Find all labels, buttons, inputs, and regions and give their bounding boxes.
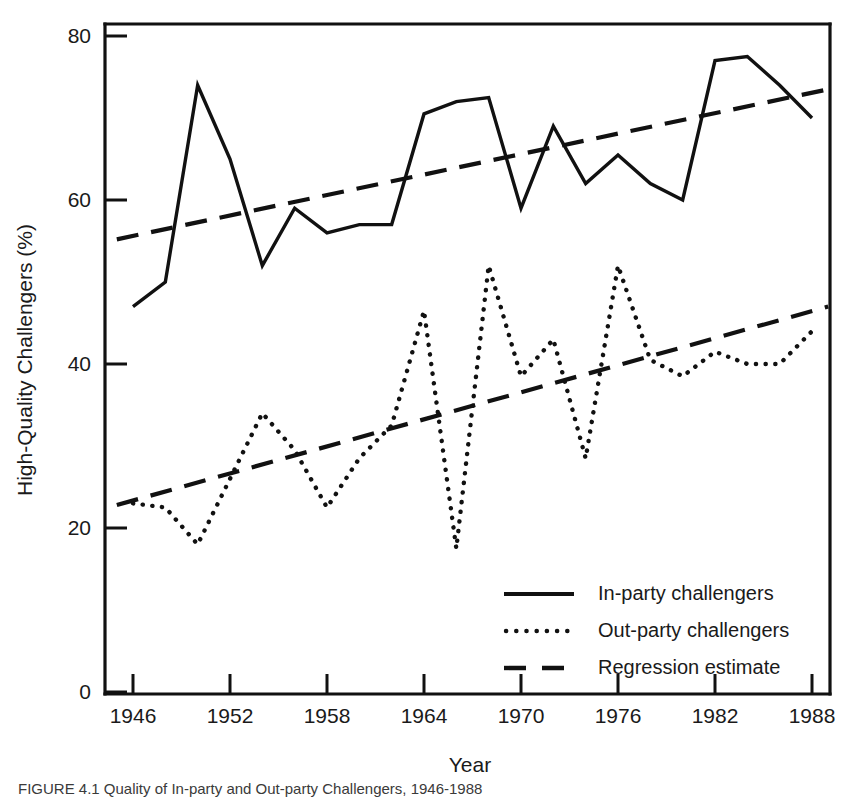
series-line-out-party: [133, 266, 812, 549]
x-tick-label-1958: 1958: [304, 704, 351, 727]
legend-label-out-party: Out-party challengers: [598, 619, 789, 641]
x-tick-label-1988: 1988: [789, 704, 836, 727]
series-line-in-party: [133, 57, 812, 307]
figure-caption: FIGURE 4.1 Quality of In-party and Out-p…: [18, 780, 858, 797]
legend-label-in-party: In-party challengers: [598, 582, 774, 604]
x-tick-label-1952: 1952: [207, 704, 254, 727]
x-tick-label-1964: 1964: [401, 704, 448, 727]
regression-line-in-party: [117, 89, 828, 239]
x-tick-label-1970: 1970: [498, 704, 545, 727]
x-tick-label-1976: 1976: [595, 704, 642, 727]
y-tick-label-60: 60: [68, 188, 91, 211]
x-tick-label-1946: 1946: [110, 704, 157, 727]
y-tick-label-0: 0: [79, 680, 91, 703]
chart-legend: In-party challengers Out-party challenge…: [504, 582, 789, 678]
y-axis-ticks: [105, 36, 127, 692]
legend-label-regression: Regression estimate: [598, 656, 780, 678]
y-axis-title: High-Quality Challengers (%): [13, 224, 36, 496]
x-axis-title: Year: [449, 753, 491, 776]
x-axis-tick-labels: 19461952195819641970197619821988: [110, 704, 836, 727]
y-axis-tick-labels: 020406080: [68, 24, 91, 703]
x-tick-label-1982: 1982: [692, 704, 739, 727]
y-tick-label-20: 20: [68, 516, 91, 539]
y-tick-label-80: 80: [68, 24, 91, 47]
y-tick-label-40: 40: [68, 352, 91, 375]
